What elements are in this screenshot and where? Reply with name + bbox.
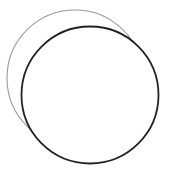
dark-circle (22, 27, 159, 164)
diagram-canvas (0, 0, 171, 173)
